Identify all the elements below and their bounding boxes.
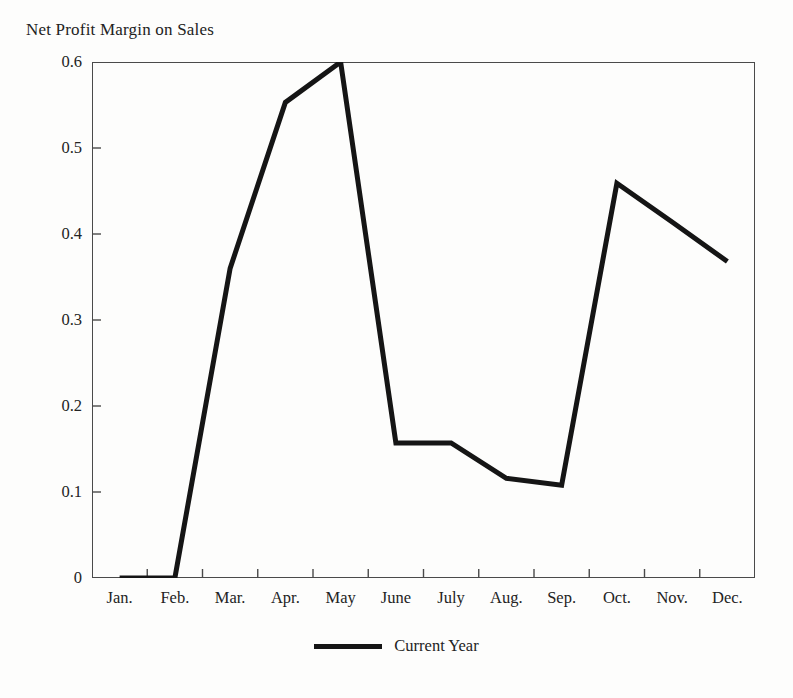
x-tick-label: Apr. bbox=[271, 588, 300, 608]
y-tick-marks bbox=[92, 148, 101, 492]
x-tick-marks bbox=[147, 569, 700, 578]
x-tick-label: Oct. bbox=[603, 588, 631, 608]
y-tick-label: 0 bbox=[12, 568, 82, 588]
x-tick-label: Sep. bbox=[547, 588, 576, 608]
legend-label-current-year: Current Year bbox=[394, 636, 478, 656]
series-group bbox=[120, 62, 728, 578]
y-tick-label: 0.5 bbox=[12, 138, 82, 158]
x-axis: Jan.Feb.Mar.Apr.MayJuneJulyAug.Sep.Oct.N… bbox=[92, 588, 755, 616]
x-tick-label: Mar. bbox=[215, 588, 246, 608]
series-line-0 bbox=[120, 62, 728, 578]
y-tick-label: 0.1 bbox=[12, 482, 82, 502]
y-tick-label: 0.6 bbox=[12, 52, 82, 72]
chart-legend: Current Year bbox=[0, 636, 793, 656]
legend-line-swatch bbox=[314, 644, 382, 649]
page-title: Net Profit Margin on Sales bbox=[26, 20, 214, 40]
x-tick-label: Jan. bbox=[107, 588, 133, 608]
line-chart-svg bbox=[92, 62, 755, 578]
x-tick-label: Nov. bbox=[656, 588, 687, 608]
x-tick-label: Dec. bbox=[712, 588, 743, 608]
chart-page: Net Profit Margin on Sales 00.10.20.30.4… bbox=[0, 0, 793, 698]
x-tick-label: Feb. bbox=[160, 588, 189, 608]
x-tick-label: Aug. bbox=[490, 588, 523, 608]
x-tick-label: May bbox=[326, 588, 356, 608]
x-tick-label: July bbox=[437, 588, 465, 608]
y-axis: 00.10.20.30.40.50.6 bbox=[0, 62, 82, 578]
y-tick-label: 0.2 bbox=[12, 396, 82, 416]
plot-area bbox=[92, 62, 755, 578]
y-tick-label: 0.3 bbox=[12, 310, 82, 330]
y-tick-label: 0.4 bbox=[12, 224, 82, 244]
x-tick-label: June bbox=[381, 588, 411, 608]
